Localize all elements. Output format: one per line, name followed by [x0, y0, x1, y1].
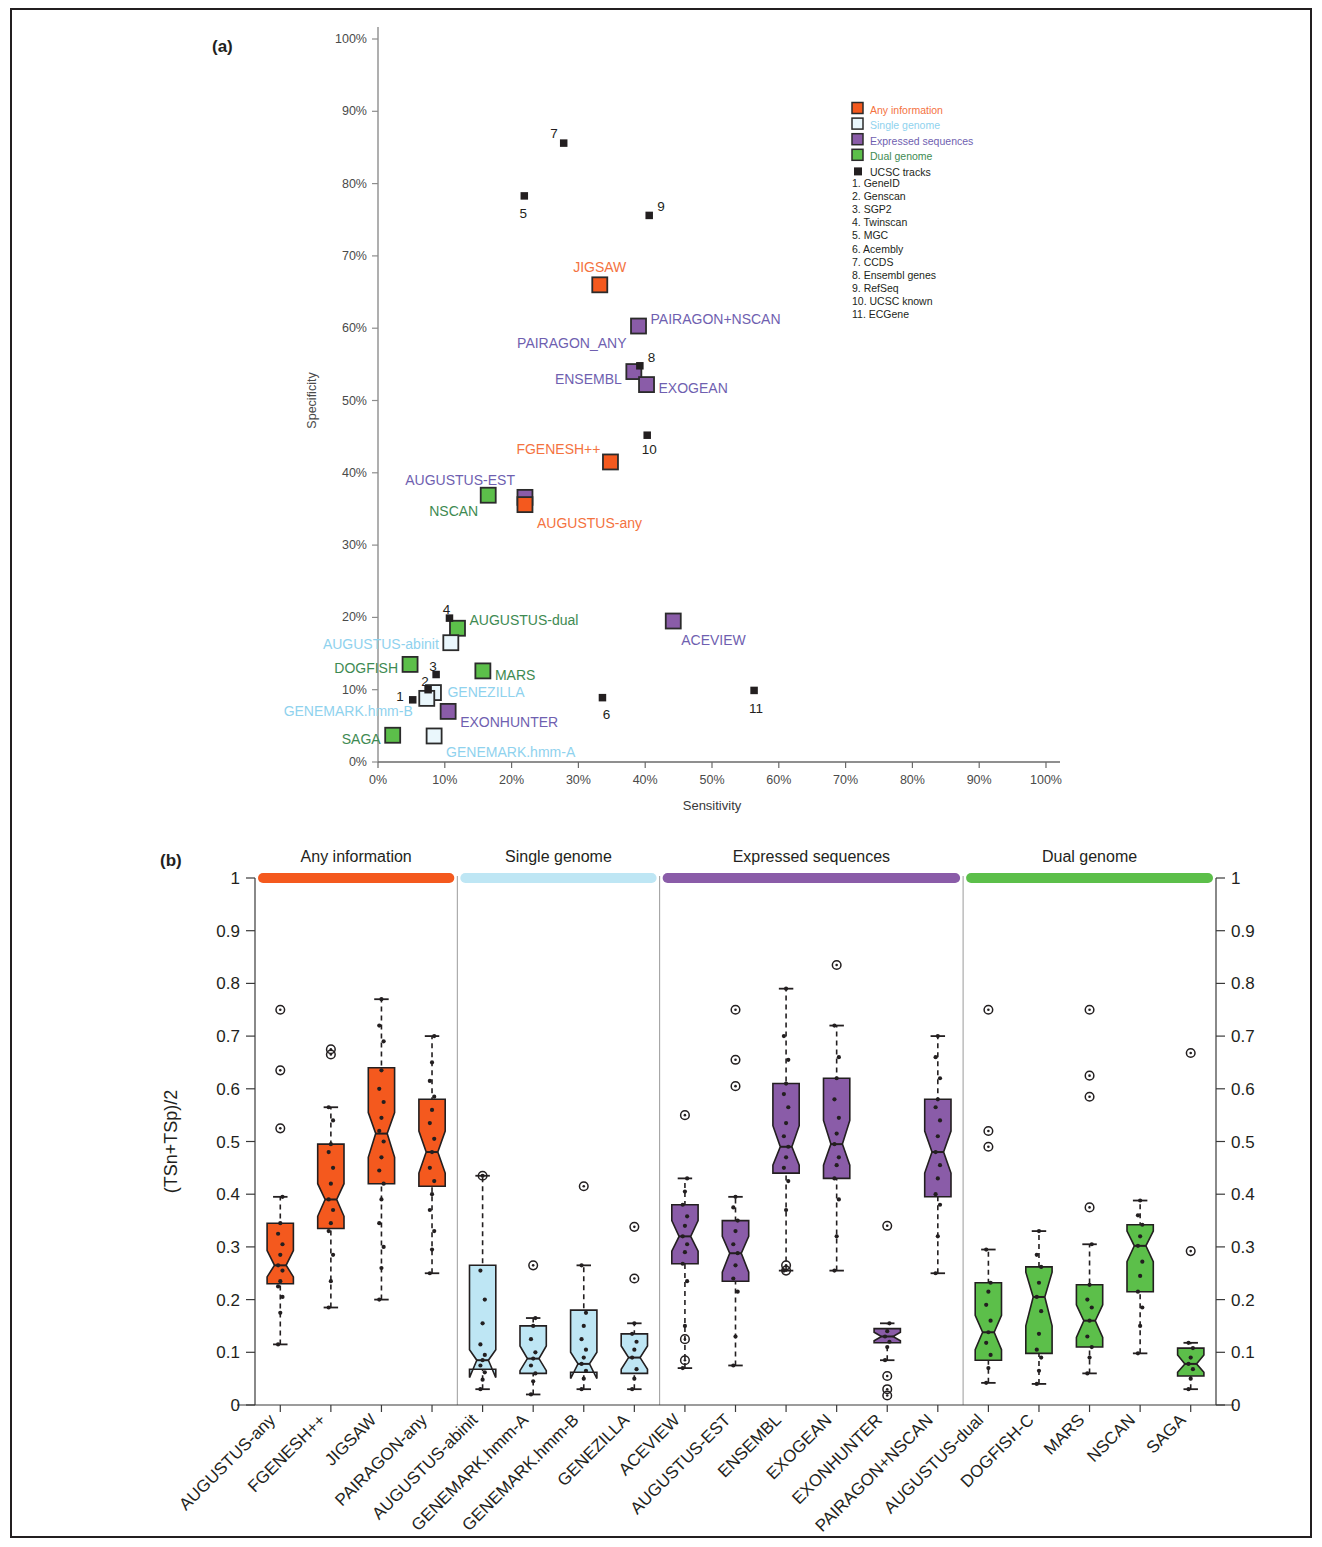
boxplot-item[interactable]: [1026, 1229, 1052, 1386]
scatter-marker[interactable]: [666, 614, 681, 629]
data-point: [630, 1387, 634, 1391]
data-point: [986, 1290, 990, 1294]
data-point: [1140, 1223, 1144, 1227]
data-point: [331, 1208, 335, 1212]
data-point: [934, 1055, 938, 1059]
y-tick-label-right: 0.3: [1231, 1238, 1255, 1257]
data-point: [786, 1058, 790, 1062]
scatter-marker[interactable]: [639, 377, 654, 392]
box-shape: [1076, 1285, 1102, 1347]
data-point: [579, 1387, 583, 1391]
data-point: [681, 1234, 685, 1238]
panel-b-content: (b)Any informationSingle genomeExpressed…: [160, 848, 1255, 1535]
scatter-marker[interactable]: [592, 277, 607, 292]
data-point: [428, 1079, 432, 1083]
boxplot-item[interactable]: [874, 1222, 900, 1400]
data-point: [278, 1279, 282, 1283]
data-point: [934, 1105, 938, 1109]
data-point: [483, 1298, 487, 1302]
outlier-center: [1088, 1008, 1091, 1011]
data-point: [584, 1369, 588, 1373]
scatter-marker[interactable]: [441, 704, 456, 719]
ucsc-track-marker[interactable]: [409, 696, 417, 704]
scatter-marker[interactable]: [450, 621, 465, 636]
boxplot-item[interactable]: [419, 1034, 445, 1275]
boxplot-item[interactable]: [571, 1182, 597, 1391]
x-tick-label: 40%: [633, 773, 658, 787]
ucsc-track-marker[interactable]: [643, 431, 651, 439]
data-point: [1035, 1253, 1039, 1257]
outlier-center: [279, 1069, 282, 1072]
data-point: [936, 1097, 940, 1101]
ucsc-track-marker[interactable]: [560, 139, 568, 147]
boxplot-item[interactable]: [470, 1171, 496, 1391]
ucsc-track-marker[interactable]: [521, 192, 529, 200]
scatter-marker[interactable]: [603, 454, 618, 469]
boxplot-item[interactable]: [368, 997, 394, 1302]
data-point: [1138, 1198, 1142, 1202]
boxplot-item[interactable]: [824, 961, 850, 1273]
scatter-marker[interactable]: [443, 635, 458, 650]
data-point: [430, 1247, 434, 1251]
y-tick-label-right: 0.1: [1231, 1343, 1255, 1362]
boxplot-item[interactable]: [1127, 1198, 1153, 1355]
x-tick-label: 80%: [900, 773, 925, 787]
boxplot-item[interactable]: [621, 1223, 647, 1392]
boxplot-item[interactable]: [722, 1005, 748, 1367]
outlier-center: [633, 1277, 636, 1280]
data-point: [832, 1142, 836, 1146]
scatter-point-label: NSCAN: [429, 503, 478, 519]
data-point: [529, 1392, 533, 1396]
data-point: [1138, 1274, 1142, 1278]
y-tick-label-left: 0: [231, 1396, 240, 1415]
scatter-marker[interactable]: [475, 663, 490, 678]
scatter-point-label: GENEMARK.hmm-A: [446, 744, 576, 760]
figure-container: (a)0%10%20%30%40%50%60%70%80%90%100%0%10…: [0, 0, 1322, 1547]
panel-b-tag: (b): [160, 851, 182, 870]
boxplot-item[interactable]: [773, 987, 799, 1275]
ucsc-track-number: 10: [642, 442, 657, 457]
data-point: [280, 1269, 284, 1273]
data-point: [377, 1221, 381, 1225]
boxplot-item[interactable]: [267, 1005, 293, 1346]
y-tick-label-right: 0.5: [1231, 1133, 1255, 1152]
ucsc-track-marker[interactable]: [645, 212, 653, 220]
data-point: [837, 1055, 841, 1059]
data-point: [786, 1145, 790, 1149]
data-point: [432, 1137, 436, 1141]
outlier-center: [1189, 1052, 1192, 1055]
data-point: [936, 1176, 940, 1180]
data-point: [784, 1208, 788, 1212]
boxplot-item[interactable]: [520, 1261, 546, 1397]
data-point: [683, 1224, 687, 1228]
y-tick-label: 70%: [342, 249, 367, 263]
ucsc-track-marker[interactable]: [636, 362, 644, 370]
legend-swatch: [854, 167, 862, 175]
boxplot-item[interactable]: [672, 1111, 698, 1370]
scatter-point-label: MARS: [495, 667, 535, 683]
data-point: [782, 1134, 786, 1138]
data-point: [430, 1060, 434, 1064]
data-point: [632, 1377, 636, 1381]
scatter-marker[interactable]: [385, 728, 400, 743]
ucsc-track-marker[interactable]: [750, 687, 758, 695]
boxplot-item[interactable]: [925, 1034, 951, 1275]
scatter-marker[interactable]: [427, 728, 442, 743]
ucsc-key-item: 6. Acembly: [852, 243, 904, 255]
ucsc-track-marker[interactable]: [599, 694, 607, 702]
boxplot-item[interactable]: [1076, 1005, 1102, 1375]
ucsc-track-number: 2: [421, 674, 429, 689]
group-color-bar: [663, 873, 960, 883]
scatter-marker[interactable]: [403, 657, 418, 672]
boxplot-item[interactable]: [318, 1045, 344, 1310]
boxplot-item[interactable]: [1178, 1049, 1204, 1392]
scatter-marker[interactable]: [631, 319, 646, 334]
group-color-bar: [460, 873, 656, 883]
scatter-marker[interactable]: [517, 497, 532, 512]
data-point: [582, 1355, 586, 1359]
ucsc-track-number: 5: [520, 206, 528, 221]
x-category-label: PAIRAGON-any: [331, 1410, 431, 1510]
y-tick-label-right: 0.2: [1231, 1291, 1255, 1310]
boxplot-item[interactable]: [975, 1005, 1001, 1385]
scatter-marker[interactable]: [481, 488, 496, 503]
